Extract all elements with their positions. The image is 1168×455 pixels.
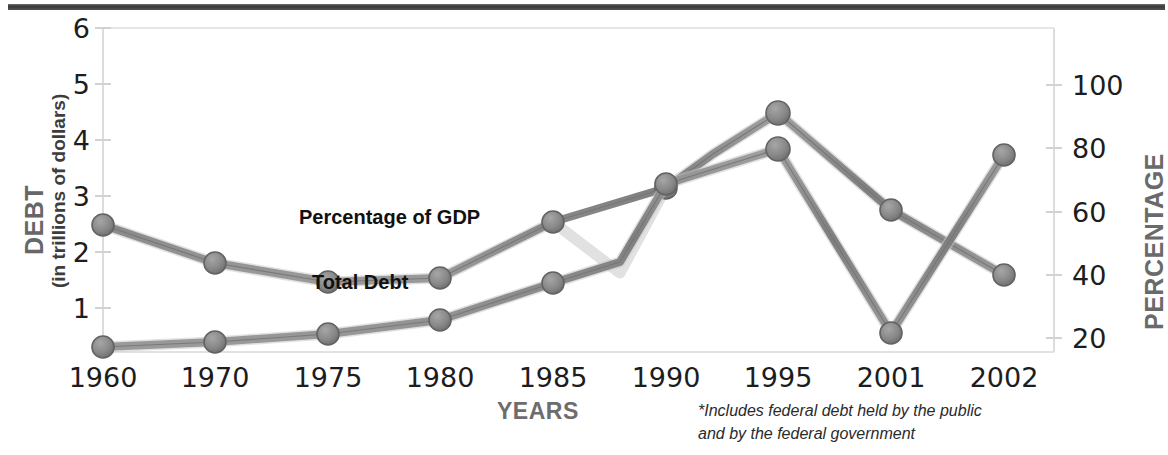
y-axis-title: DEBT [20, 185, 49, 255]
ytick-label-right-20: 20 [1072, 323, 1132, 354]
footnote-line-2: and by the federal government [698, 422, 982, 445]
y-axis-subtitle: (in trillions of dollars) [48, 94, 70, 288]
xtick-label-1975: 1975 [278, 362, 378, 393]
total-debt-markers [92, 137, 1015, 358]
xtick-label-1980: 1980 [390, 362, 490, 393]
ytick-label-right-60: 60 [1072, 197, 1132, 228]
xtick-label-1960: 1960 [53, 362, 153, 393]
xtick-label-1970: 1970 [165, 362, 265, 393]
footnote-line-1: *Includes federal debt held by the publi… [698, 399, 982, 422]
xtick-label-1995: 1995 [728, 362, 828, 393]
series-label-percentage-of-gdp: Percentage of GDP [299, 206, 480, 229]
series-percentage-of-gdp [92, 101, 1015, 293]
ytick-label-right-80: 80 [1072, 133, 1132, 164]
xtick-label-2002: 2002 [954, 362, 1054, 393]
chart-figure: 6 5 4 3 2 1 100 80 60 40 20 1960 1970 19… [0, 0, 1168, 455]
series-label-total-debt: Total Debt [312, 271, 408, 294]
xtick-label-1990: 1990 [616, 362, 716, 393]
chart-footnote: *Includes federal debt held by the publi… [698, 399, 982, 445]
x-axis-title: YEARS [497, 398, 579, 425]
xtick-label-2001: 2001 [841, 362, 941, 393]
ytick-label-right-40: 40 [1072, 260, 1132, 291]
y2-axis-title: PERCENTAGE [1140, 153, 1168, 330]
ytick-label-right-100: 100 [1072, 70, 1132, 101]
series-total-debt [92, 137, 1015, 358]
ytick-label-left-1: 1 [50, 293, 90, 324]
xtick-label-1985: 1985 [503, 362, 603, 393]
ytick-label-left-6: 6 [50, 13, 90, 44]
